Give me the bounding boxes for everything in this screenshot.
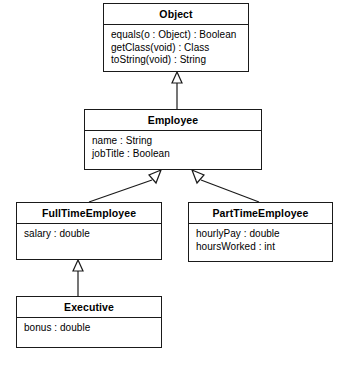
class-member: name : String (92, 135, 261, 148)
class-box-executive[interactable]: Executive bonus : double (16, 296, 162, 348)
class-box-fulltimeemployee[interactable]: FullTimeEmployee salary : double (16, 202, 162, 260)
arrowhead-fulltimeemployee-to-employee (149, 170, 161, 183)
class-members-fulltimeemployee: salary : double (17, 224, 161, 244)
class-name-executive: Executive (17, 297, 161, 318)
class-name-fulltimeemployee: FullTimeEmployee (17, 203, 161, 224)
uml-class-diagram: Object equals(o : Object) : Boolean getC… (0, 0, 346, 366)
class-member: hourlyPay : double (196, 228, 332, 241)
class-members-executive: bonus : double (17, 318, 161, 338)
class-members-object: equals(o : Object) : Boolean getClass(vo… (104, 25, 248, 70)
arrowhead-executive-to-fulltimeemployee (73, 260, 83, 271)
class-name-employee: Employee (85, 110, 261, 131)
class-members-parttimeemployee: hourlyPay : double hoursWorked : int (189, 224, 332, 256)
class-member: toString(void) : String (111, 54, 248, 67)
class-member: equals(o : Object) : Boolean (111, 29, 248, 42)
class-box-employee[interactable]: Employee name : String jobTitle : Boolea… (84, 109, 262, 170)
class-member: getClass(void) : Class (111, 42, 248, 55)
class-box-parttimeemployee[interactable]: PartTimeEmployee hourlyPay : double hour… (188, 202, 333, 262)
edge-parttimeemployee-to-employee (201, 180, 259, 202)
edge-fulltimeemployee-to-employee (89, 180, 152, 202)
class-members-employee: name : String jobTitle : Boolean (85, 131, 261, 163)
class-name-parttimeemployee: PartTimeEmployee (189, 203, 332, 224)
class-member: jobTitle : Boolean (92, 148, 261, 161)
arrowhead-employee-to-object (172, 72, 182, 83)
class-name-object: Object (104, 4, 248, 25)
class-box-object[interactable]: Object equals(o : Object) : Boolean getC… (103, 3, 249, 72)
arrowhead-parttimeemployee-to-employee (192, 170, 204, 183)
class-member: hoursWorked : int (196, 241, 332, 254)
class-member: salary : double (24, 228, 161, 241)
class-member: bonus : double (24, 322, 161, 335)
